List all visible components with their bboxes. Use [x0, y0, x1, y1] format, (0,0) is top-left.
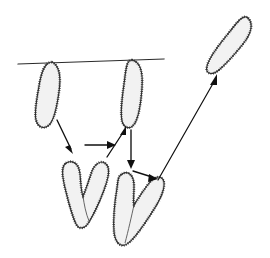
chromosome-top-right: [121, 60, 142, 128]
chromosome-v-left: [63, 162, 109, 228]
chromosome-detached-body: [207, 17, 252, 74]
arrow-left-descend-head: [65, 145, 73, 154]
arrow-right-descend-head: [127, 160, 135, 169]
arrow-horizontal-transfer: [85, 141, 116, 149]
arrow-right-descend: [127, 130, 135, 169]
figure-root: [0, 0, 270, 258]
chromosome-v-left-body: [63, 162, 109, 228]
chromosome-v-right: [114, 173, 164, 246]
arrow-left-descend-shaft: [57, 120, 71, 149]
chromosome-detached: [207, 17, 252, 74]
arrow-right-ascend: [107, 126, 126, 157]
arrow-left-descend: [57, 120, 73, 154]
arrow-release-long-shaft: [158, 80, 215, 180]
chromosome-diagram-svg: [0, 0, 270, 258]
equator-line-group: [18, 59, 164, 64]
arrow-release-long-head: [210, 74, 217, 85]
chromosome-top-left-body: [35, 62, 60, 127]
equator-line: [18, 59, 164, 64]
chromosome-top-right-body: [121, 60, 142, 128]
chromosome-v-right-body: [114, 173, 164, 246]
chromosome-top-left: [35, 62, 60, 127]
arrow-release-long: [158, 74, 217, 180]
